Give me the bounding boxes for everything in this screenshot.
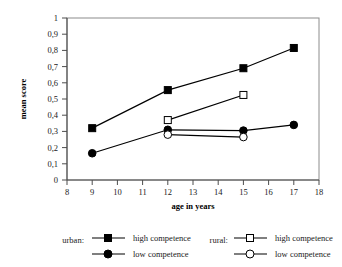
chart-container: 1 0,9 0,8 0,7 0,6 0,5 0,4 0,3 0,2 0,1 0 [0,0,342,267]
y-axis-ticks [62,18,67,180]
legend-group-label-rural: rural: [210,235,228,245]
legend-entry-urban-high-competence[interactable]: high competence [92,233,191,243]
plot-area-frame [67,18,319,180]
y-tick-label: 0,2 [47,143,58,153]
open-square-icon [247,235,254,242]
data-point-marker [164,117,171,124]
y-tick-label: 0,8 [47,45,58,55]
data-point-marker [240,133,248,141]
data-point-marker [290,44,297,51]
y-tick-label: 0,9 [47,29,58,39]
legend-label: high competence [275,233,333,243]
data-point-marker [290,121,298,129]
data-point-marker [240,91,247,98]
y-tick-label: 0,1 [47,159,58,169]
filled-square-icon [105,235,112,242]
y-tick-label: 0,7 [47,62,58,72]
y-tick-label: 1 [54,13,58,23]
x-axis-title: age in years [172,201,216,211]
filled-circle-icon [104,250,112,258]
x-axis-ticks [67,180,319,185]
data-point-marker [164,87,171,94]
y-tick-label: 0,4 [47,110,58,120]
x-tick-label: 11 [139,187,147,197]
data-point-marker [164,131,172,139]
x-tick-label: 15 [239,187,248,197]
y-tick-label: 0 [54,175,58,185]
legend-entry-rural-low-competence[interactable]: low competence [234,249,331,259]
x-tick-label: 17 [290,187,299,197]
line-chart: 1 0,9 0,8 0,7 0,6 0,5 0,4 0,3 0,2 0,1 0 [0,0,342,267]
data-point-marker [240,65,247,72]
data-point-marker [88,149,96,157]
x-tick-label: 9 [90,187,94,197]
chart-legend: urban: high competence low competence ru… [62,233,333,259]
y-axis-title: mean score [18,78,28,119]
y-axis-tick-labels: 1 0,9 0,8 0,7 0,6 0,5 0,4 0,3 0,2 0,1 0 [47,13,58,185]
legend-entry-urban-low-competence[interactable]: low competence [92,249,189,259]
legend-label: low competence [133,249,189,259]
x-tick-label: 12 [164,187,173,197]
legend-label: low competence [275,249,331,259]
open-circle-icon [246,250,254,258]
x-tick-label: 13 [189,187,198,197]
y-tick-label: 0,3 [47,126,58,136]
y-tick-label: 0,5 [47,94,58,104]
x-tick-label: 14 [214,187,223,197]
y-tick-label: 0,6 [47,78,58,88]
x-tick-label: 10 [113,187,122,197]
legend-entry-rural-high-competence[interactable]: high competence [234,233,333,243]
x-axis-tick-labels: 8 9 10 11 12 13 14 15 16 17 18 [65,187,323,197]
x-tick-label: 16 [264,187,273,197]
data-point-marker [89,125,96,132]
x-tick-label: 8 [65,187,69,197]
legend-label: high competence [133,233,191,243]
x-tick-label: 18 [315,187,324,197]
legend-group-label-urban: urban: [62,235,84,245]
